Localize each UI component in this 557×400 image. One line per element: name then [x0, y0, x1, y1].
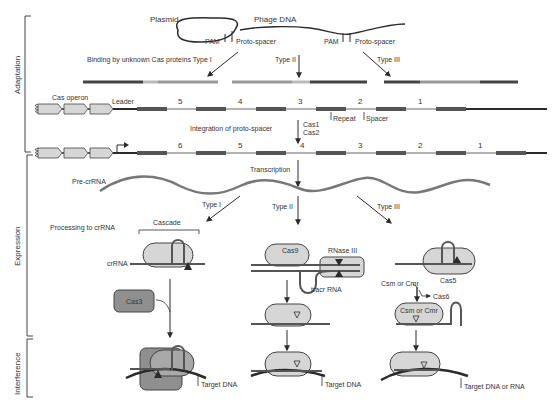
spacer-number: 1 [418, 97, 423, 106]
processing-label: Processing to crRNA [50, 224, 115, 232]
target3-label: Target DNA or RNA [464, 383, 525, 391]
spacer-number: 2 [418, 141, 423, 150]
spacer-number: 6 [178, 141, 183, 150]
bracket-adaptation: Adaptation [13, 16, 31, 152]
binding-arrows: Binding by unknown Cas proteins Type I T… [87, 52, 400, 77]
type3-csm-cmr: Cas5 Csm or Cmr Cas6 Csm or Cmr [381, 242, 475, 350]
cas3-label: Cas3 [126, 298, 142, 305]
spacer-number: 5 [178, 97, 183, 106]
cas1-label: Cas1 [303, 121, 319, 128]
phage-label: Phage DNA [254, 15, 297, 24]
stage-brackets: Adaptation Expression Interference [13, 16, 33, 397]
pre-crrna: Pre-crRNA [72, 177, 490, 194]
type3-binding-label: Type III [377, 56, 400, 64]
type1-cascade: Processing to crRNA Cascade crRNA Cas3 [50, 219, 205, 337]
target2-label: Target DNA [325, 381, 362, 389]
cas-operon-genes-2 [35, 148, 113, 158]
spacer-number: 4 [300, 141, 305, 150]
target1-label: Target DNA [201, 381, 238, 389]
crispr-diagram: Adaptation Expression Interference Plasm… [0, 0, 557, 400]
binding-label: Binding by unknown Cas proteins Type I [87, 56, 212, 64]
repeat-label: Repeat [333, 115, 356, 123]
type2-interference: Target DNA [251, 352, 362, 389]
spacer-number: 3 [298, 97, 303, 106]
cas9-label: Cas9 [282, 247, 298, 254]
csm-cmr-complex-label: Csm or Cmr [400, 307, 438, 314]
crrna-label: crRNA [107, 260, 128, 267]
pam-label-1: PAM [205, 38, 220, 45]
type2-label: Type II [272, 203, 293, 211]
cas2-label: Cas2 [303, 129, 319, 136]
processing-arrows: Type I Type II Type III [202, 196, 400, 224]
rnase3-label: RNase III [328, 247, 357, 254]
spacer-label: Spacer [366, 115, 389, 123]
spacer-number: 1 [478, 141, 483, 150]
leader-label: Leader [112, 98, 134, 105]
pre-crrna-label: Pre-crRNA [72, 178, 106, 185]
plasmid-label: Plasmid [150, 15, 178, 24]
csm-cmr-label: Csm or Cmr [381, 280, 419, 287]
type2-binding-label: Type II [275, 56, 296, 64]
cas-operon-genes [35, 104, 113, 114]
type1-label: Type I [202, 201, 221, 209]
protospacer-label-1: Proto-spacer [236, 38, 277, 46]
stage-label-expression: Expression [13, 226, 22, 266]
cascade-label: Cascade [153, 219, 181, 226]
stage-label-adaptation: Adaptation [13, 56, 22, 94]
type3-interference: Target DNA or RNA [381, 352, 525, 391]
type1-interference: Target DNA [126, 346, 238, 390]
promoter-arrow-icon [117, 145, 124, 153]
crispr-array-1: Cas operon Leader 5 4 3 2 1 Repeat Space… [35, 94, 547, 123]
integration-label: Integration of proto-spacer [190, 125, 273, 133]
pam-label-2: PAM [324, 38, 339, 45]
crispr-array-2: 6 5 4 3 2 1 [35, 141, 547, 158]
integration-step: Integration of proto-spacer Cas1 Cas2 [190, 120, 319, 143]
spacer-number: 2 [358, 97, 363, 106]
transcription-step: Transcription [250, 160, 298, 186]
spacer-number: 5 [238, 141, 243, 150]
bracket-expression: Expression [13, 155, 33, 336]
cas5-label: Cas5 [440, 277, 456, 284]
spacer-number: 3 [358, 141, 363, 150]
protospacer-label-2: Proto-spacer [355, 38, 396, 46]
cas6-label: Cas6 [433, 293, 449, 300]
bracket-interference: Interference [13, 339, 33, 397]
cas-operon-label: Cas operon [52, 94, 88, 102]
transcription-label: Transcription [250, 166, 290, 174]
type3-label: Type III [377, 203, 400, 211]
spacer-number: 4 [238, 97, 243, 106]
stage-label-interference: Interference [13, 352, 22, 395]
tracr-label: tracr RNA [311, 286, 342, 293]
type2-cas9: Cas9 RNase III tracr RNA [251, 244, 364, 350]
